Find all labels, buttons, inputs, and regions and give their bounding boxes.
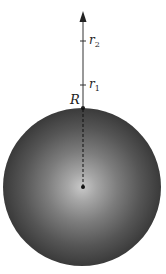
sphere-diagram: r2 r1 R	[0, 0, 166, 274]
radius-label: R	[69, 92, 80, 107]
r2-label: r2	[89, 33, 100, 49]
center-point	[81, 185, 85, 189]
arrow-up-icon	[80, 11, 87, 22]
r1-label: r1	[89, 77, 100, 93]
